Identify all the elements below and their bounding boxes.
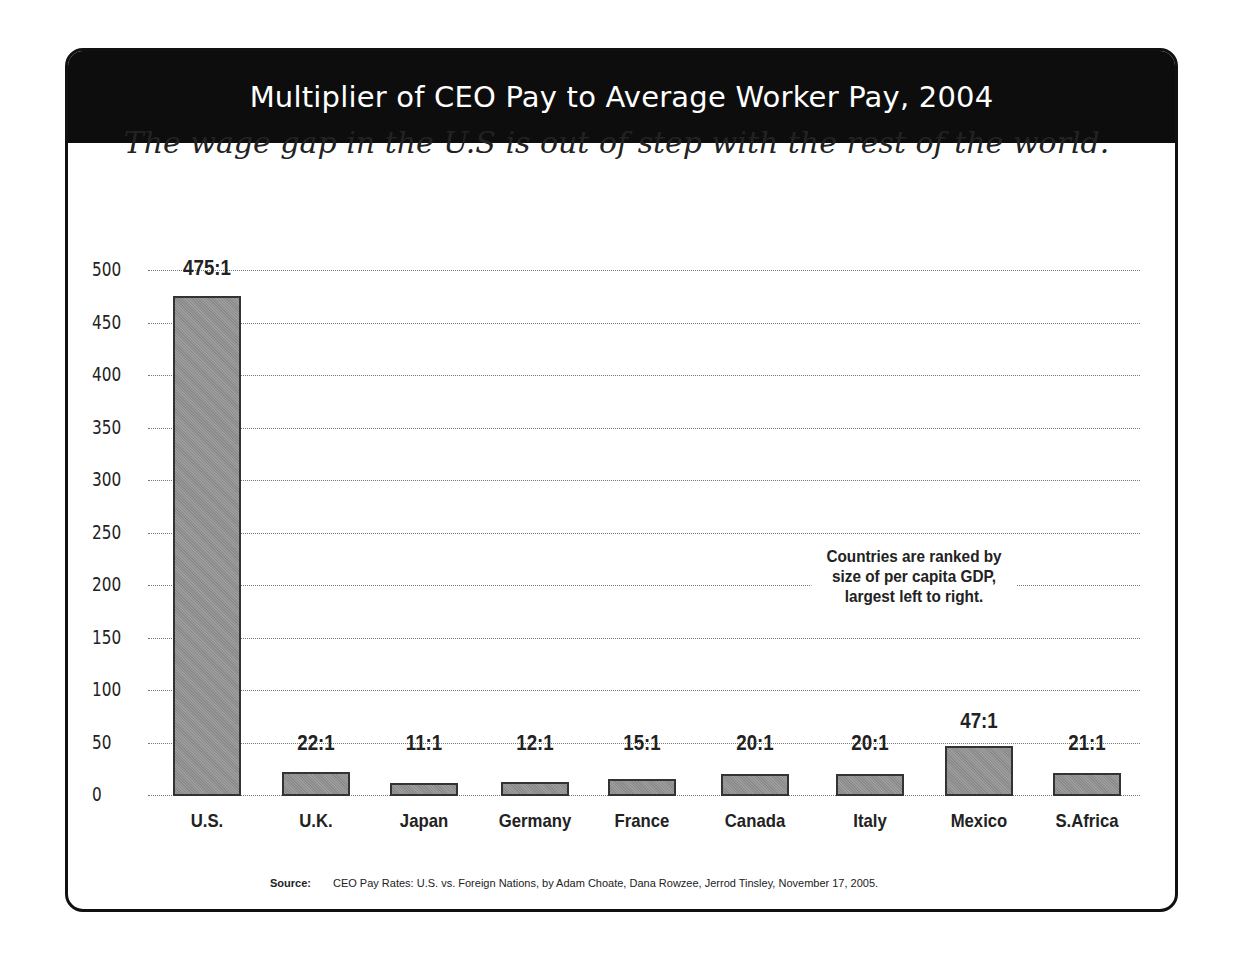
bar-safrica <box>1053 773 1121 796</box>
data-label: 15:1 <box>591 730 693 756</box>
x-tick-label: Mexico <box>926 810 1032 832</box>
gridline <box>148 533 1140 534</box>
data-label: 22:1 <box>265 730 367 756</box>
y-tick-label: 450 <box>92 310 126 334</box>
x-tick-label: Japan <box>371 810 477 832</box>
y-tick-label: 50 <box>92 730 126 754</box>
bar-canada <box>721 774 789 796</box>
data-label: 475:1 <box>156 255 258 281</box>
y-tick-label: 500 <box>92 257 126 281</box>
bar-uk <box>282 772 350 796</box>
bar-italy <box>836 774 904 796</box>
source-label: Source: <box>270 877 311 889</box>
gridline <box>148 323 1140 324</box>
source-citation: Source:CEO Pay Rates: U.S. vs. Foreign N… <box>270 877 878 889</box>
bar-germany <box>501 782 569 796</box>
source-text: CEO Pay Rates: U.S. vs. Foreign Nations,… <box>333 877 878 889</box>
y-tick-label: 400 <box>92 362 126 386</box>
data-label: 20:1 <box>819 730 921 756</box>
data-label: 20:1 <box>704 730 806 756</box>
x-tick-label: U.S. <box>154 810 260 832</box>
x-tick-label: Canada <box>702 810 808 832</box>
gridline <box>148 690 1140 691</box>
y-tick-label: 350 <box>92 415 126 439</box>
x-tick-label: U.K. <box>263 810 369 832</box>
gridline <box>148 638 1140 639</box>
bar-mexico <box>945 746 1013 796</box>
annotation-note: Countries are ranked by size of per capi… <box>811 547 1016 607</box>
x-tick-label: S.Africa <box>1034 810 1140 832</box>
y-tick-label: 250 <box>92 520 126 544</box>
y-tick-label: 150 <box>92 625 126 649</box>
y-tick-label: 200 <box>92 572 126 596</box>
y-tick-label: 0 <box>92 782 126 806</box>
gridline <box>148 270 1140 271</box>
y-tick-label: 300 <box>92 467 126 491</box>
bar-france <box>608 779 676 796</box>
data-label: 12:1 <box>484 730 586 756</box>
bar-us <box>173 296 241 796</box>
bar-japan <box>390 783 458 796</box>
gridline <box>148 375 1140 376</box>
data-label: 21:1 <box>1036 730 1138 756</box>
x-tick-label: Italy <box>817 810 923 832</box>
gridline <box>148 480 1140 481</box>
data-label: 11:1 <box>373 730 475 756</box>
y-tick-label: 100 <box>92 677 126 701</box>
data-label: 47:1 <box>928 708 1030 734</box>
x-tick-label: France <box>589 810 695 832</box>
x-tick-label: Germany <box>482 810 588 832</box>
chart-subtitle: The wage gap in the U.S is out of step w… <box>0 125 1233 160</box>
gridline <box>148 428 1140 429</box>
